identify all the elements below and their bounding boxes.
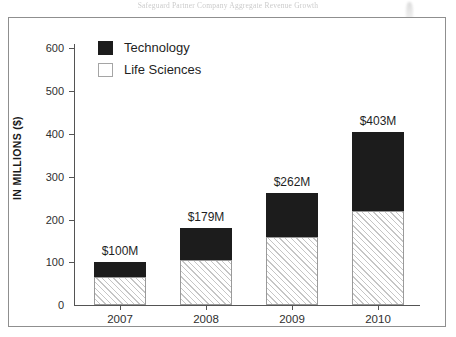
y-tick-500 bbox=[69, 91, 75, 92]
legend-label-technology: Technology bbox=[124, 40, 190, 55]
y-axis-title: IN MILLIONS ($) bbox=[11, 93, 23, 223]
y-tick-400 bbox=[69, 134, 75, 135]
x-tick-2010 bbox=[378, 305, 379, 310]
bar-segment-life-sciences-2008[interactable] bbox=[180, 260, 232, 305]
y-axis-line bbox=[74, 44, 75, 306]
bar-value-label-2008: $179M bbox=[161, 210, 251, 224]
legend-item-life-sciences[interactable]: Life Sciences bbox=[98, 60, 201, 79]
x-axis-label-2008: 2008 bbox=[171, 313, 241, 325]
bar-chart: 600 500 400 300 200 100 0 IN MILLIONS ($… bbox=[0, 0, 456, 337]
x-axis-line bbox=[74, 305, 420, 306]
bar-segment-technology-2009[interactable] bbox=[266, 193, 318, 237]
bar-value-label-2009: $262M bbox=[247, 175, 337, 189]
y-tick-300 bbox=[69, 177, 75, 178]
bar-segment-life-sciences-2010[interactable] bbox=[352, 211, 404, 305]
x-axis-label-2007: 2007 bbox=[85, 313, 155, 325]
bar-segment-technology-2008[interactable] bbox=[180, 228, 232, 260]
x-tick-2009 bbox=[292, 305, 293, 310]
y-tick-label-600: 600 bbox=[24, 43, 64, 54]
y-tick-label-300: 300 bbox=[24, 172, 64, 183]
x-tick-2007 bbox=[120, 305, 121, 310]
legend-label-life-sciences: Life Sciences bbox=[124, 62, 201, 77]
bar-segment-technology-2010[interactable] bbox=[352, 132, 404, 211]
y-tick-label-0: 0 bbox=[24, 300, 64, 311]
chart-legend: Technology Life Sciences bbox=[98, 38, 201, 82]
x-axis-label-2010: 2010 bbox=[343, 313, 413, 325]
legend-swatch-life-sciences-icon bbox=[98, 63, 113, 77]
bar-segment-life-sciences-2007[interactable] bbox=[94, 277, 146, 305]
x-tick-2008 bbox=[206, 305, 207, 310]
y-tick-600 bbox=[69, 48, 75, 49]
x-axis-label-2009: 2009 bbox=[257, 313, 327, 325]
bar-value-label-2007: $100M bbox=[75, 244, 165, 258]
y-tick-label-100: 100 bbox=[24, 257, 64, 268]
y-tick-label-200: 200 bbox=[24, 215, 64, 226]
bar-group-2009[interactable]: $262M bbox=[266, 193, 318, 305]
y-tick-100 bbox=[69, 262, 75, 263]
y-tick-label-400: 400 bbox=[24, 129, 64, 140]
bar-group-2010[interactable]: $403M bbox=[352, 132, 404, 305]
bar-segment-technology-2007[interactable] bbox=[94, 262, 146, 277]
legend-item-technology[interactable]: Technology bbox=[98, 38, 201, 57]
bar-segment-life-sciences-2009[interactable] bbox=[266, 237, 318, 305]
bar-group-2007[interactable]: $100M bbox=[94, 262, 146, 305]
y-tick-200 bbox=[69, 220, 75, 221]
legend-swatch-technology-icon bbox=[98, 41, 113, 55]
y-tick-label-500: 500 bbox=[24, 86, 64, 97]
bar-value-label-2010: $403M bbox=[333, 114, 423, 128]
bar-group-2008[interactable]: $179M bbox=[180, 228, 232, 305]
